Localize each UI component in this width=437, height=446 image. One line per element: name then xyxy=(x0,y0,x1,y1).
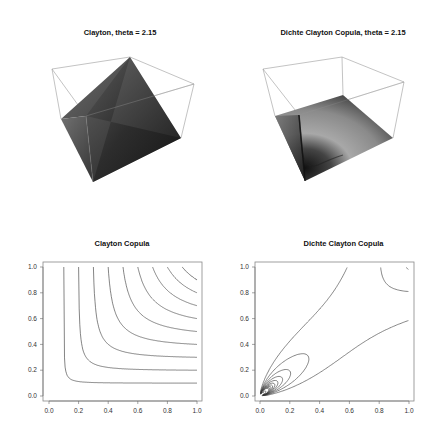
svg-text:0.8: 0.8 xyxy=(240,289,249,296)
svg-text:0.4: 0.4 xyxy=(315,407,324,414)
svg-text:0.0: 0.0 xyxy=(240,392,249,399)
contour-plot-density: 1.0 0.8 0.6 0.4 0.2 0.0 0.0 0.2 0.4 0.6 … xyxy=(0,0,437,446)
svg-text:0.6: 0.6 xyxy=(240,315,249,322)
svg-text:1.0: 1.0 xyxy=(404,407,413,414)
contour-line xyxy=(261,268,409,396)
svg-text:0.4: 0.4 xyxy=(240,341,249,348)
svg-text:0.0: 0.0 xyxy=(255,407,264,414)
svg-text:0.6: 0.6 xyxy=(345,407,354,414)
y-tick-labels: 1.0 0.8 0.6 0.4 0.2 0.0 xyxy=(240,263,249,399)
x-axis xyxy=(260,401,409,404)
x-tick-labels: 0.0 0.2 0.4 0.6 0.8 1.0 xyxy=(255,407,413,414)
svg-text:0.8: 0.8 xyxy=(375,407,384,414)
contour-line xyxy=(261,268,409,396)
svg-text:0.2: 0.2 xyxy=(285,407,294,414)
svg-text:0.2: 0.2 xyxy=(240,366,249,373)
contour-line xyxy=(261,268,409,396)
plot-frame xyxy=(255,262,414,401)
contour-lines xyxy=(261,268,409,396)
y-axis xyxy=(252,267,255,396)
svg-text:1.0: 1.0 xyxy=(240,263,249,270)
